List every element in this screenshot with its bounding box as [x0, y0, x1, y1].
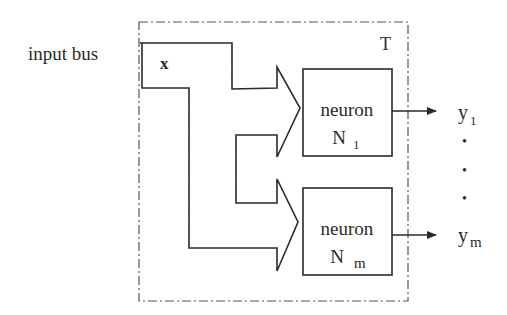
ellipsis-dot-2: •	[462, 163, 467, 178]
neuron-1-subscript: 1	[353, 137, 360, 152]
neuron-1-word: neuron	[321, 99, 374, 120]
neuron-1-name: N	[332, 127, 346, 148]
neural-bus-diagram: input bus x T neuron N 1 neuron N m y 1 …	[0, 0, 507, 315]
input-bus-label: input bus	[28, 43, 98, 64]
output-y1-subscript: 1	[470, 113, 477, 128]
ellipsis-dot-3: •	[462, 191, 467, 206]
container-label-t: T	[380, 34, 391, 54]
neuron-m-word: neuron	[321, 218, 374, 239]
bus-path-to-neuron-1	[140, 43, 300, 271]
output-ym-label: y	[458, 224, 468, 247]
output-y1-label: y	[458, 101, 468, 124]
bus-symbol-x: x	[160, 54, 169, 73]
ellipsis-dot-1: •	[462, 134, 467, 149]
neuron-m-name: N	[330, 246, 344, 267]
output-ym-subscript: m	[470, 234, 482, 250]
neuron-m-subscript: m	[354, 255, 366, 271]
